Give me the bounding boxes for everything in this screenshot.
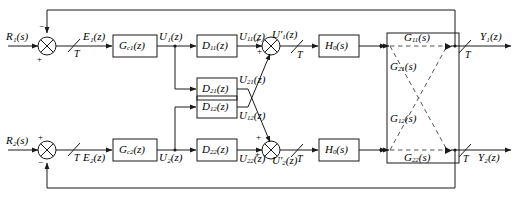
u21-base: U [239,73,247,85]
label-sampler-output-2: T [463,154,469,164]
label-signal-u11: U11(z) [239,31,265,43]
g21-arg: (s) [405,60,417,72]
label-zero-order-hold-2: H0(s) [325,144,348,156]
u21-arg: (z) [254,73,266,85]
u22-base: U [239,152,247,164]
h02-arg: (s) [336,143,348,155]
controller-1-arg: (z) [133,39,145,51]
d22-sub: 22 [210,148,217,155]
plant-block-outline [387,33,459,163]
g22-arg: (s) [419,151,431,163]
d21-sub: 21 [210,87,217,94]
u11-base: U [239,30,247,42]
sign-sum2-negative: − [38,158,43,167]
label-plant-g22: G22(s) [404,152,430,164]
u21-sub: 21 [247,78,254,85]
label-control-signal-2: U₂(z) [159,152,182,163]
label-error-1: E₁(z) [83,31,105,42]
label-sampler-input-1: T [74,49,80,59]
d22-arg: (z) [217,143,229,155]
label-sampler-input-2: T [74,153,80,163]
label-signal-u21: U21(z) [239,74,265,86]
d12-base: D [202,100,210,112]
d11-base: D [202,39,210,51]
u1p-arg: (z) [286,28,298,40]
d21-arg: (z) [217,82,229,94]
sign-sumA-direct: + [255,36,260,45]
g11-arg: (s) [418,31,430,43]
label-controller-1: Gc1(z) [119,40,145,52]
u2p-arg: (z) [286,154,298,166]
d11-arg: (z) [216,39,228,51]
label-output-1: Y₁(z) [480,31,502,42]
label-sampler-mid-1: T [297,50,303,60]
label-decoupler-d12: D12(z) [202,101,228,113]
node-fb1 [453,44,456,47]
label-decoupler-d22: D22(z) [202,144,228,156]
label-plant-g11: G11(s) [404,32,430,44]
d12-arg: (z) [217,100,229,112]
sign-sum1-negative: − [39,22,44,31]
d22-base: D [202,143,210,155]
node-u1 [173,44,176,47]
u1p-base: U′ [272,28,282,40]
u12-sub: 12 [247,114,254,121]
label-error-2: E₂(z) [83,152,105,163]
label-reference-1: R₁(s) [6,31,28,42]
g11-base: G [404,31,412,43]
u12-arg: (z) [254,109,266,121]
u2p-base: U′ [272,154,282,166]
g21-base: G [390,60,398,72]
label-summed-signal-2: U′2(z) [272,155,297,167]
label-signal-u12: U12(z) [239,110,265,122]
label-summed-signal-1: U′1(z) [272,29,297,41]
u12-base: U [239,109,247,121]
u22-sub: 22 [247,157,254,164]
arrow-plant-node-1 [445,43,452,50]
block-diagram: R₁(s) R₂(s) + − + − T T T T T T E₁(z) E₂… [0,0,517,198]
sign-sumA-cross: + [257,47,262,56]
label-controller-2: Gc2(z) [119,144,145,156]
label-plant-g21: G21(s) [390,61,416,73]
label-reference-2: R₂(s) [6,135,28,146]
controller-1-base: G [119,39,127,51]
controller-2-arg: (z) [133,143,145,155]
g12-sub: 12 [398,117,405,124]
h02-base: H [325,143,333,155]
label-plant-g12: G12(s) [390,113,416,125]
g12-base: G [390,112,398,124]
d21-base: D [202,82,210,94]
g21-sub: 21 [398,65,405,72]
sign-sumB-direct: + [255,150,260,159]
g12-arg: (s) [405,112,417,124]
label-decoupler-d21: D21(z) [202,83,228,95]
g22-base: G [404,151,412,163]
label-sampler-mid-2: T [297,154,303,164]
controller-2-base: G [119,143,127,155]
g22-sub: 22 [412,156,419,163]
h01-arg: (s) [336,39,348,51]
h01-base: H [325,39,333,51]
node-fb2 [453,148,456,151]
sign-sum2-positive: + [38,133,43,142]
plant-internal-arrowheads [445,43,452,154]
sign-sumB-cross: + [256,133,261,142]
sign-sum1-positive: + [37,55,42,64]
label-zero-order-hold-1: H0(s) [325,40,348,52]
label-decoupler-d11: D11(z) [202,40,228,52]
d12-sub: 12 [210,105,217,112]
label-signal-u22: U22(z) [239,153,265,165]
label-sampler-output-1: T [465,50,471,60]
label-control-signal-1: U₁(z) [159,31,182,42]
label-output-2: Y₂(z) [478,152,500,163]
arrow-plant-node-2 [445,147,452,154]
